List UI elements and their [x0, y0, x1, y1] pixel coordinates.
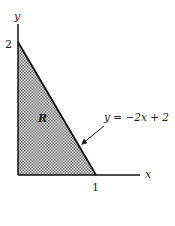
- region-diagram: y 2 1 x R y = −2x + 2: [0, 0, 175, 226]
- y-axis-label: y: [13, 10, 21, 23]
- region-label: R: [37, 112, 47, 125]
- arrow-icon: [82, 126, 104, 144]
- y-tick-label: 2: [5, 38, 12, 51]
- x-axis-label: x: [145, 168, 152, 181]
- equation-label: y = −2x + 2: [103, 111, 169, 123]
- x-tick-label: 1: [92, 181, 99, 194]
